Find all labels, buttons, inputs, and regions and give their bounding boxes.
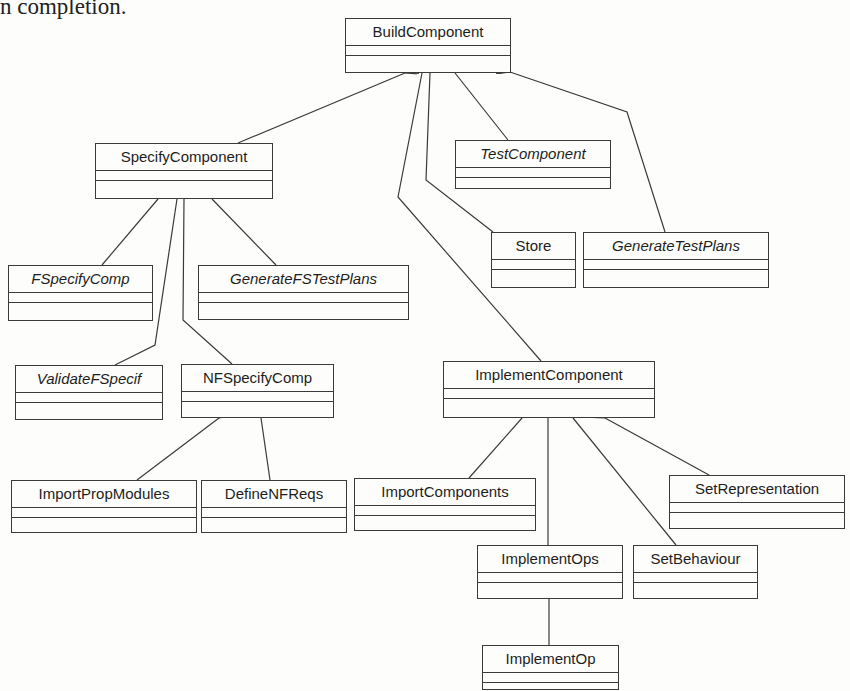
link-specify-fspecify xyxy=(102,199,158,265)
class-name: ImportComponents xyxy=(355,479,535,506)
class-import-prop-modules: ImportPropModules xyxy=(11,480,197,533)
link-build-implement xyxy=(398,73,541,361)
class-name: ImplementOps xyxy=(478,546,622,573)
attributes-compartment xyxy=(355,506,535,516)
attributes-compartment xyxy=(16,393,162,403)
class-define-nf-reqs: DefineNFReqs xyxy=(201,480,347,533)
class-set-representation: SetRepresentation xyxy=(669,475,845,529)
link-nf-importprop xyxy=(137,418,219,480)
operations-compartment xyxy=(456,178,610,188)
operations-compartment xyxy=(355,516,535,530)
link-impl-importcomp xyxy=(469,418,522,478)
link-impl-behaviour xyxy=(573,418,676,545)
class-name: BuildComponent xyxy=(346,19,510,46)
class-generate-fs-test-plans: GenerateFSTestPlans xyxy=(198,265,409,320)
link-build-test xyxy=(455,73,508,140)
operations-compartment xyxy=(634,583,757,598)
class-name: NFSpecifyComp xyxy=(182,365,333,392)
operations-compartment xyxy=(202,518,346,532)
operations-compartment xyxy=(584,270,768,287)
class-import-components: ImportComponents xyxy=(354,478,536,531)
attributes-compartment xyxy=(670,503,844,513)
class-generate-test-plans: GenerateTestPlans xyxy=(583,232,769,288)
class-test-component: TestComponent xyxy=(455,140,611,189)
operations-compartment xyxy=(199,303,408,319)
attributes-compartment xyxy=(202,508,346,518)
link-impl-representation xyxy=(605,418,709,475)
operations-compartment xyxy=(670,513,844,528)
class-name: Store xyxy=(492,233,575,260)
class-implement-ops: ImplementOps xyxy=(477,545,623,599)
attributes-compartment xyxy=(346,46,510,56)
class-set-behaviour: SetBehaviour xyxy=(633,545,758,599)
class-name: SetBehaviour xyxy=(634,546,757,573)
operations-compartment xyxy=(483,683,618,689)
class-name: SetRepresentation xyxy=(670,476,844,503)
operations-compartment xyxy=(346,56,510,72)
attributes-compartment xyxy=(9,293,152,303)
attributes-compartment xyxy=(12,508,196,518)
class-nfspecify-comp: NFSpecifyComp xyxy=(181,364,334,418)
class-name: GenerateFSTestPlans xyxy=(199,266,408,293)
operations-compartment xyxy=(492,270,575,287)
attributes-compartment xyxy=(584,260,768,270)
class-name: ValidateFSpecif xyxy=(16,366,162,393)
attributes-compartment xyxy=(182,392,333,402)
class-name: FSpecifyComp xyxy=(9,266,152,293)
class-specify-component: SpecifyComponent xyxy=(95,143,273,199)
class-name: ImplementOp xyxy=(483,646,618,673)
link-specify-genfs xyxy=(212,199,276,265)
operations-compartment xyxy=(182,402,333,417)
class-name: ImplementComponent xyxy=(444,362,654,389)
operations-compartment xyxy=(444,399,654,417)
attributes-compartment xyxy=(96,171,272,181)
operations-compartment xyxy=(478,583,622,598)
class-validate-fspecif: ValidateFSpecif xyxy=(15,365,163,420)
operations-compartment xyxy=(12,518,196,532)
operations-compartment xyxy=(9,303,152,320)
class-store: Store xyxy=(491,232,576,288)
operations-compartment xyxy=(96,181,272,198)
attributes-compartment xyxy=(492,260,575,270)
attributes-compartment xyxy=(483,673,618,683)
class-name: DefineNFReqs xyxy=(202,481,346,508)
link-build-specify xyxy=(238,73,405,143)
attributes-compartment xyxy=(199,293,408,303)
class-implement-component: ImplementComponent xyxy=(443,361,655,418)
attributes-compartment xyxy=(478,573,622,583)
class-fspecify-comp: FSpecifyComp xyxy=(8,265,153,321)
class-name: ImportPropModules xyxy=(12,481,196,508)
attributes-compartment xyxy=(444,389,654,399)
class-name: GenerateTestPlans xyxy=(584,233,768,260)
class-name: TestComponent xyxy=(456,141,610,168)
class-build-component: BuildComponent xyxy=(345,18,511,73)
attributes-compartment xyxy=(634,573,757,583)
class-implement-op: ImplementOp xyxy=(482,645,619,690)
class-name: SpecifyComponent xyxy=(96,144,272,171)
operations-compartment xyxy=(16,403,162,419)
attributes-compartment xyxy=(456,168,610,178)
link-nf-definenf xyxy=(261,418,270,480)
